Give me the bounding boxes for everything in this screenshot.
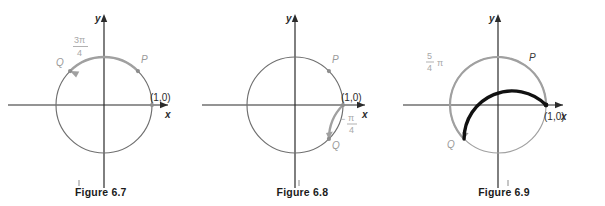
angle-label-sign: − [340,114,345,124]
unit-point-dot [150,103,154,107]
x-axis [8,102,168,108]
figure-6-8-graphic: P Q (1,0) − π 4 x y [202,0,404,206]
angle-label-denominator: 4 [427,63,432,73]
y-axis-label: y [285,13,292,24]
figure-panel-6-7: P Q (1,0) 3π 4 x y Figure 6.7 [0,0,202,206]
y-axis [291,14,297,188]
point-P-dot [136,69,140,73]
point-P-label: P [141,54,148,65]
figure-caption-6-7: Figure 6.7 [0,186,202,198]
point-Q-label: Q [56,57,64,68]
angle-label-5-4-pi: 5 4 π [426,51,443,73]
angle-label-denominator: 4 [349,125,354,135]
x-axis-label: x [361,109,368,120]
point-P-label: P [529,52,536,63]
point-Q-dot [68,69,72,73]
unit-point-dot [544,103,549,108]
point-P-dot [326,69,330,73]
unit-point-label: (1,0) [150,92,171,103]
figure-panel-6-9: P Q (1,0) 5 4 π x y Figure 6.9 [403,0,605,206]
y-axis [495,14,501,188]
y-axis-label: y [488,13,495,24]
y-axis-label: y [94,13,101,24]
angle-label-numerator: π [348,113,354,123]
angle-label-3pi-4: 3π 4 [73,35,88,58]
figure-6-9-graphic: P Q (1,0) 5 4 π x y [403,0,605,206]
angle-label-numerator: 5 [427,51,432,61]
figure-row: P Q (1,0) 3π 4 x y Figure 6.7 [0,0,605,206]
point-P-label: P [332,54,339,65]
x-axis-label: x [560,111,567,122]
point-Q-label: Q [447,139,455,150]
angle-label-denominator: 4 [77,48,82,58]
unit-point-dot [340,103,344,107]
angle-label-pi-symbol: π [437,58,443,68]
x-axis-label: x [164,109,171,120]
unit-point-label: (1,0) [341,92,362,103]
figure-panel-6-8: P Q (1,0) − π 4 x y Figure 6.8 [202,0,404,206]
figure-caption-6-8: Figure 6.8 [202,186,404,198]
point-Q-dot [326,137,330,141]
angle-label-numerator: 3π [74,35,85,45]
arc-cw-black [464,91,546,139]
point-Q-label: Q [332,140,340,151]
figure-6-7-graphic: P Q (1,0) 3π 4 x y [0,0,202,206]
figure-caption-6-9: Figure 6.9 [403,186,605,198]
y-axis [101,14,107,188]
angle-label-neg-pi-4: − π 4 [340,113,357,135]
